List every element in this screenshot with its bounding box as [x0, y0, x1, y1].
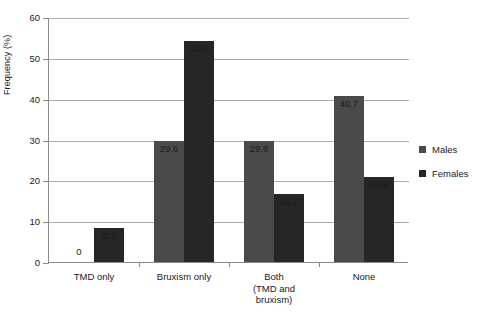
gridline	[49, 59, 409, 60]
x-axis-tick	[139, 262, 140, 267]
y-axis-tick	[43, 141, 49, 142]
bar-value-label: 40.7	[334, 99, 364, 109]
x-axis-category-label: Bruxism only	[157, 271, 211, 283]
legend-item-females[interactable]: Females	[419, 165, 468, 182]
bar-males-1: 29.6	[154, 141, 184, 262]
x-axis-category-label: TMD only	[74, 271, 115, 283]
y-axis-tick-label: 50	[29, 54, 40, 64]
bar-value-label: 20.8	[364, 180, 394, 190]
y-axis-tick	[43, 100, 49, 101]
y-axis-tick	[43, 181, 49, 182]
x-axis-tick	[319, 262, 320, 267]
legend-item-males[interactable]: Males	[419, 141, 468, 158]
x-axis-category-label-line: (TMD and	[253, 283, 295, 295]
legend-swatch-icon	[419, 146, 426, 153]
x-axis-tick	[229, 262, 230, 267]
plot-area: 010203040506008.3TMD only29.654.2Bruxism…	[48, 18, 408, 263]
bar-females-1: 54.2	[184, 41, 214, 262]
bar-value-label: 16.7	[274, 197, 304, 207]
bar-value-label: 54.2	[184, 44, 214, 54]
y-axis-tick-label: 30	[29, 136, 40, 146]
bar-value-label: 29.6	[244, 144, 274, 154]
y-axis-tick-label: 0	[35, 258, 40, 268]
legend-swatch-icon	[419, 170, 426, 177]
legend-label: Females	[432, 169, 468, 179]
y-axis-tick	[43, 263, 49, 264]
y-axis-tick	[43, 222, 49, 223]
x-axis-category-label-line: TMD only	[74, 271, 115, 283]
y-axis-tick-label: 40	[29, 95, 40, 105]
y-axis-tick-label: 10	[29, 217, 40, 227]
y-axis-tick	[43, 18, 49, 19]
bar-females-2: 16.7	[274, 194, 304, 262]
x-axis-category-label-line: None	[353, 271, 376, 283]
chart-legend: MalesFemales	[419, 141, 468, 189]
bar-males-3: 40.7	[334, 96, 364, 262]
y-axis-title: Frequency (%)	[2, 0, 12, 95]
y-axis-tick-label: 60	[29, 13, 40, 23]
bar-value-label: 8.3	[94, 231, 124, 241]
bar-females-3: 20.8	[364, 177, 394, 262]
bar-value-label: 0	[76, 247, 81, 257]
bar-females-0: 8.3	[94, 228, 124, 262]
y-axis-tick-label: 20	[29, 177, 40, 187]
x-axis-category-label-line: Bruxism only	[157, 271, 211, 283]
y-axis-tick	[43, 59, 49, 60]
legend-label: Males	[432, 145, 457, 155]
x-axis-category-label: Both(TMD andbruxism)	[253, 271, 295, 306]
x-axis-category-label: None	[353, 271, 376, 283]
gridline	[49, 18, 409, 19]
bar-males-2: 29.6	[244, 141, 274, 262]
x-axis-category-label-line: Both	[253, 271, 295, 283]
bar-value-label: 29.6	[154, 144, 184, 154]
bar-chart-figure: Frequency (%) 010203040506008.3TMD only2…	[0, 0, 480, 319]
x-axis-category-label-line: bruxism)	[253, 294, 295, 306]
